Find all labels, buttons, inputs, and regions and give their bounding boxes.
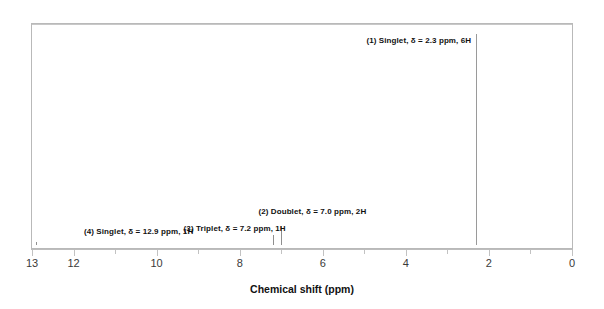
x-tick-minor — [364, 250, 365, 254]
x-tick-major — [74, 250, 75, 256]
x-tick-minor — [447, 250, 448, 254]
x-tick-major — [406, 250, 407, 256]
peak-label-2: (2) Doublet, δ = 7.0 ppm, 2H — [258, 207, 366, 216]
x-tick-label: 2 — [486, 257, 492, 269]
nmr-spectrum-figure: Chemical shift (ppm) (1) Singlet, δ = 2.… — [0, 0, 604, 309]
x-tick-minor — [530, 250, 531, 254]
x-tick-minor — [198, 250, 199, 254]
x-tick-major — [323, 250, 324, 256]
x-tick-major — [157, 250, 158, 256]
x-tick-label: 4 — [403, 257, 409, 269]
x-tick-major — [240, 250, 241, 256]
spectrum-baseline — [32, 24, 572, 25]
x-tick-label: 6 — [320, 257, 326, 269]
peak-label-1: (1) Singlet, δ = 2.3 ppm, 6H — [366, 36, 471, 45]
x-tick-minor — [281, 250, 282, 254]
x-tick-label: 10 — [150, 257, 162, 269]
peak-line-1 — [476, 34, 477, 245]
x-tick-major — [572, 250, 573, 256]
peak-line-4 — [36, 242, 37, 245]
peak-line-3 — [273, 235, 274, 245]
peak-label-3: (3) Triplet, δ = 7.2 ppm, 1H — [184, 224, 286, 233]
x-tick-label: 0 — [569, 257, 575, 269]
x-tick-label: 12 — [67, 257, 79, 269]
peak-label-4: (4) Singlet, δ = 12.9 ppm, 1H — [84, 227, 193, 236]
x-tick-minor — [115, 250, 116, 254]
x-axis-line — [31, 249, 573, 250]
x-axis-title: Chemical shift (ppm) — [0, 283, 604, 295]
x-tick-major — [489, 250, 490, 256]
x-tick-label: 8 — [237, 257, 243, 269]
x-tick-label: 13 — [26, 257, 38, 269]
x-tick-major — [32, 250, 33, 256]
